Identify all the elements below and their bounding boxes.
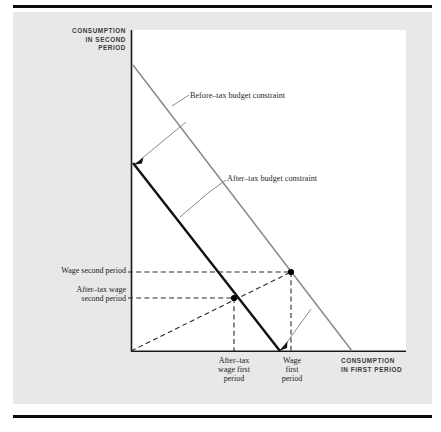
- after-tax-wage-second-period-label: After–tax wage second period: [18, 286, 126, 304]
- x-axis-label: CONSUMPTION IN FIRST PERIOD: [341, 357, 419, 374]
- y-axis-label: CONSUMPTION IN SECOND PERIOD: [44, 27, 126, 53]
- before-tax-constraint-label: Before–tax budget constraint: [190, 91, 285, 100]
- top-rule: [13, 5, 432, 8]
- bottom-rule: [13, 415, 432, 418]
- wage-first-period-label: Wage first period: [266, 357, 318, 384]
- after-tax-constraint-label: After–tax budget constraint: [227, 174, 317, 183]
- after-tax-wage-first-period-label: After–tax wage first period: [198, 357, 270, 384]
- figure-page: CONSUMPTION IN SECOND PERIOD CONSUMPTION…: [0, 0, 441, 432]
- plot-area: [131, 30, 406, 352]
- wage-second-period-label: Wage second period: [18, 267, 126, 276]
